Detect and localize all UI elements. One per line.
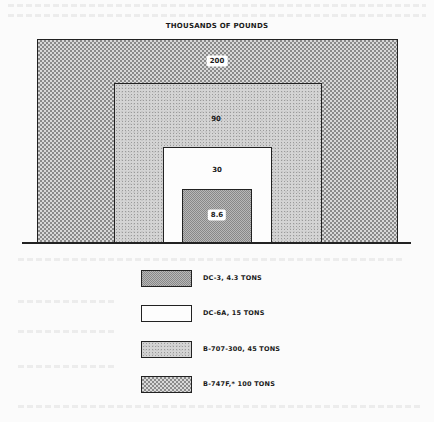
baseline	[22, 242, 411, 244]
legend-swatch	[141, 305, 192, 322]
bleed-line	[8, 4, 426, 7]
legend-swatch	[141, 376, 192, 393]
bleed-line	[18, 258, 404, 261]
value-label-8-6: 8.6	[208, 210, 226, 221]
bleed-line	[8, 14, 426, 17]
bleed-line	[18, 300, 114, 303]
chart-title: THOUSANDS OF POUNDS	[0, 22, 434, 30]
legend-label: DC-6A, 15 TONS	[203, 309, 265, 317]
bleed-line	[18, 405, 422, 408]
legend-label: DC-3, 4.3 TONS	[203, 274, 262, 282]
value-label-90: 90	[208, 114, 224, 125]
bleed-line	[18, 365, 114, 368]
legend-swatch	[141, 341, 192, 358]
value-label-30: 30	[209, 165, 225, 176]
legend-swatch	[141, 270, 192, 287]
legend-label: B-707-300, 45 TONS	[203, 345, 280, 353]
legend-label: B-747F,* 100 TONS	[203, 380, 275, 388]
value-label-200: 200	[207, 56, 228, 67]
bleed-line	[18, 330, 114, 333]
